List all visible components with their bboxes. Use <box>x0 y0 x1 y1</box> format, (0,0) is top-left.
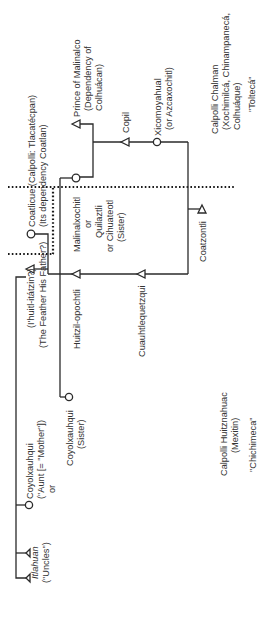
triangle-copil-icon <box>121 138 129 146</box>
triangle-cuauhtlequetzqui-icon <box>137 270 145 278</box>
label-itlahuan: Itlahuan ("Uncles") <box>30 542 51 583</box>
kinship-diagram: Prince of Malinalco (Dependency of Colhu… <box>0 0 263 626</box>
label-coyolxauhqui-sister: Coyolxauhqui (Sister) <box>65 408 86 466</box>
label-cuauhtlequetzqui: Cuauhtlequetzqui <box>137 285 147 357</box>
label-coyolxauhqui-aunt: Coyolxauhqui ("Aunt [= "Mother"]) or <box>25 417 57 499</box>
line-left-vertical <box>16 277 26 578</box>
circle-coyolxauhqui-aunt-icon <box>25 501 32 508</box>
label-huitzilopochtli: Huitzil-opochtli <box>72 289 82 349</box>
triangle-prince-malinalco-icon <box>72 120 80 128</box>
label-calpolli-chalman: Calpolli Chalman (Xochimilcá, Chinampane… <box>210 10 242 134</box>
triangle-huitzilopochtli-icon <box>72 270 80 278</box>
label-ihuitl-itatzin: (I'huitl-itátzin?) (The Feather His Fath… <box>26 242 48 348</box>
circle-coatlicue-icon <box>27 230 35 238</box>
label-calpolli-huitznahuac: Calpolli Huitznahuac (Mexitin) <box>219 390 240 476</box>
label-tolteca: "Toltecá" <box>247 76 257 112</box>
label-xicomoyahual: Xicomoyahual (or Azcaxochitl) <box>153 67 174 136</box>
label-copil: Copil <box>121 112 131 133</box>
circle-coyolxauhqui-sister-icon <box>65 393 72 400</box>
label-chichimeca: "Chichimeca" <box>248 417 258 472</box>
label-malinalxochitl: Malinalxochitl or Quilaztli or Cihuateot… <box>72 194 126 252</box>
line-prince-malinalco <box>80 124 93 177</box>
label-coatlicue: Coatlicue (Calpolli: Tlacatécpan) (Its d… <box>27 92 48 227</box>
label-prince-malinalco: Prince of Malinalco (Dependency of Colhu… <box>72 37 104 117</box>
circle-xicomoyahual-icon <box>153 138 160 145</box>
label-coatzontli: Coatzontli <box>198 221 208 262</box>
circle-malinalxochitl-icon <box>72 174 80 182</box>
